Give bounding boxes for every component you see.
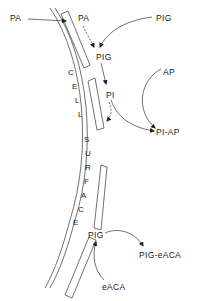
- svg-text:S: S: [84, 135, 89, 144]
- membrane-segment-3: [94, 165, 107, 230]
- svg-text:C: C: [78, 205, 84, 214]
- svg-text:L: L: [78, 110, 83, 119]
- svg-text:F: F: [84, 177, 89, 186]
- membrane-segment-2: [88, 78, 104, 130]
- svg-text:E: E: [73, 218, 78, 227]
- svg-text:R: R: [85, 163, 91, 172]
- cell-surface-diagram: C E L L S U R F A C E PA PA PIG PIG AP P…: [0, 0, 199, 301]
- label-eaca: eACA: [102, 282, 125, 292]
- svg-text:A: A: [81, 191, 87, 200]
- svg-text:U: U: [85, 149, 91, 158]
- svg-text:C: C: [68, 68, 74, 77]
- arrow-eaca-to-pig: [94, 242, 104, 280]
- label-ap: AP: [163, 67, 175, 77]
- arrow-pi-to-piap: [111, 100, 154, 131]
- arrow-pig-to-eaca: [105, 231, 143, 246]
- arrow-pig-source: [100, 17, 152, 47]
- label-pig-lower: PIG: [88, 230, 104, 240]
- arrow-pa-to-pig: [83, 26, 94, 47]
- membrane-segment-4: [65, 237, 96, 298]
- arrow-pa-in: [28, 19, 66, 21]
- svg-text:E: E: [72, 82, 77, 91]
- arrow-pi-dashed: [107, 102, 111, 121]
- arrow-pig-to-pi: [101, 63, 106, 84]
- label-pig-source: PIG: [156, 13, 172, 23]
- label-pa-inside: PA: [78, 13, 89, 23]
- label-pig-eaca: PIG-eACA: [139, 250, 181, 260]
- arrow-ap-to-piap: [142, 69, 161, 128]
- label-pa-outside: PA: [10, 13, 21, 23]
- label-pi: PI: [106, 90, 115, 100]
- label-pi-ap: PI-AP: [156, 127, 180, 137]
- label-pig-membrane: PIG: [96, 52, 112, 62]
- svg-text:L: L: [75, 96, 80, 105]
